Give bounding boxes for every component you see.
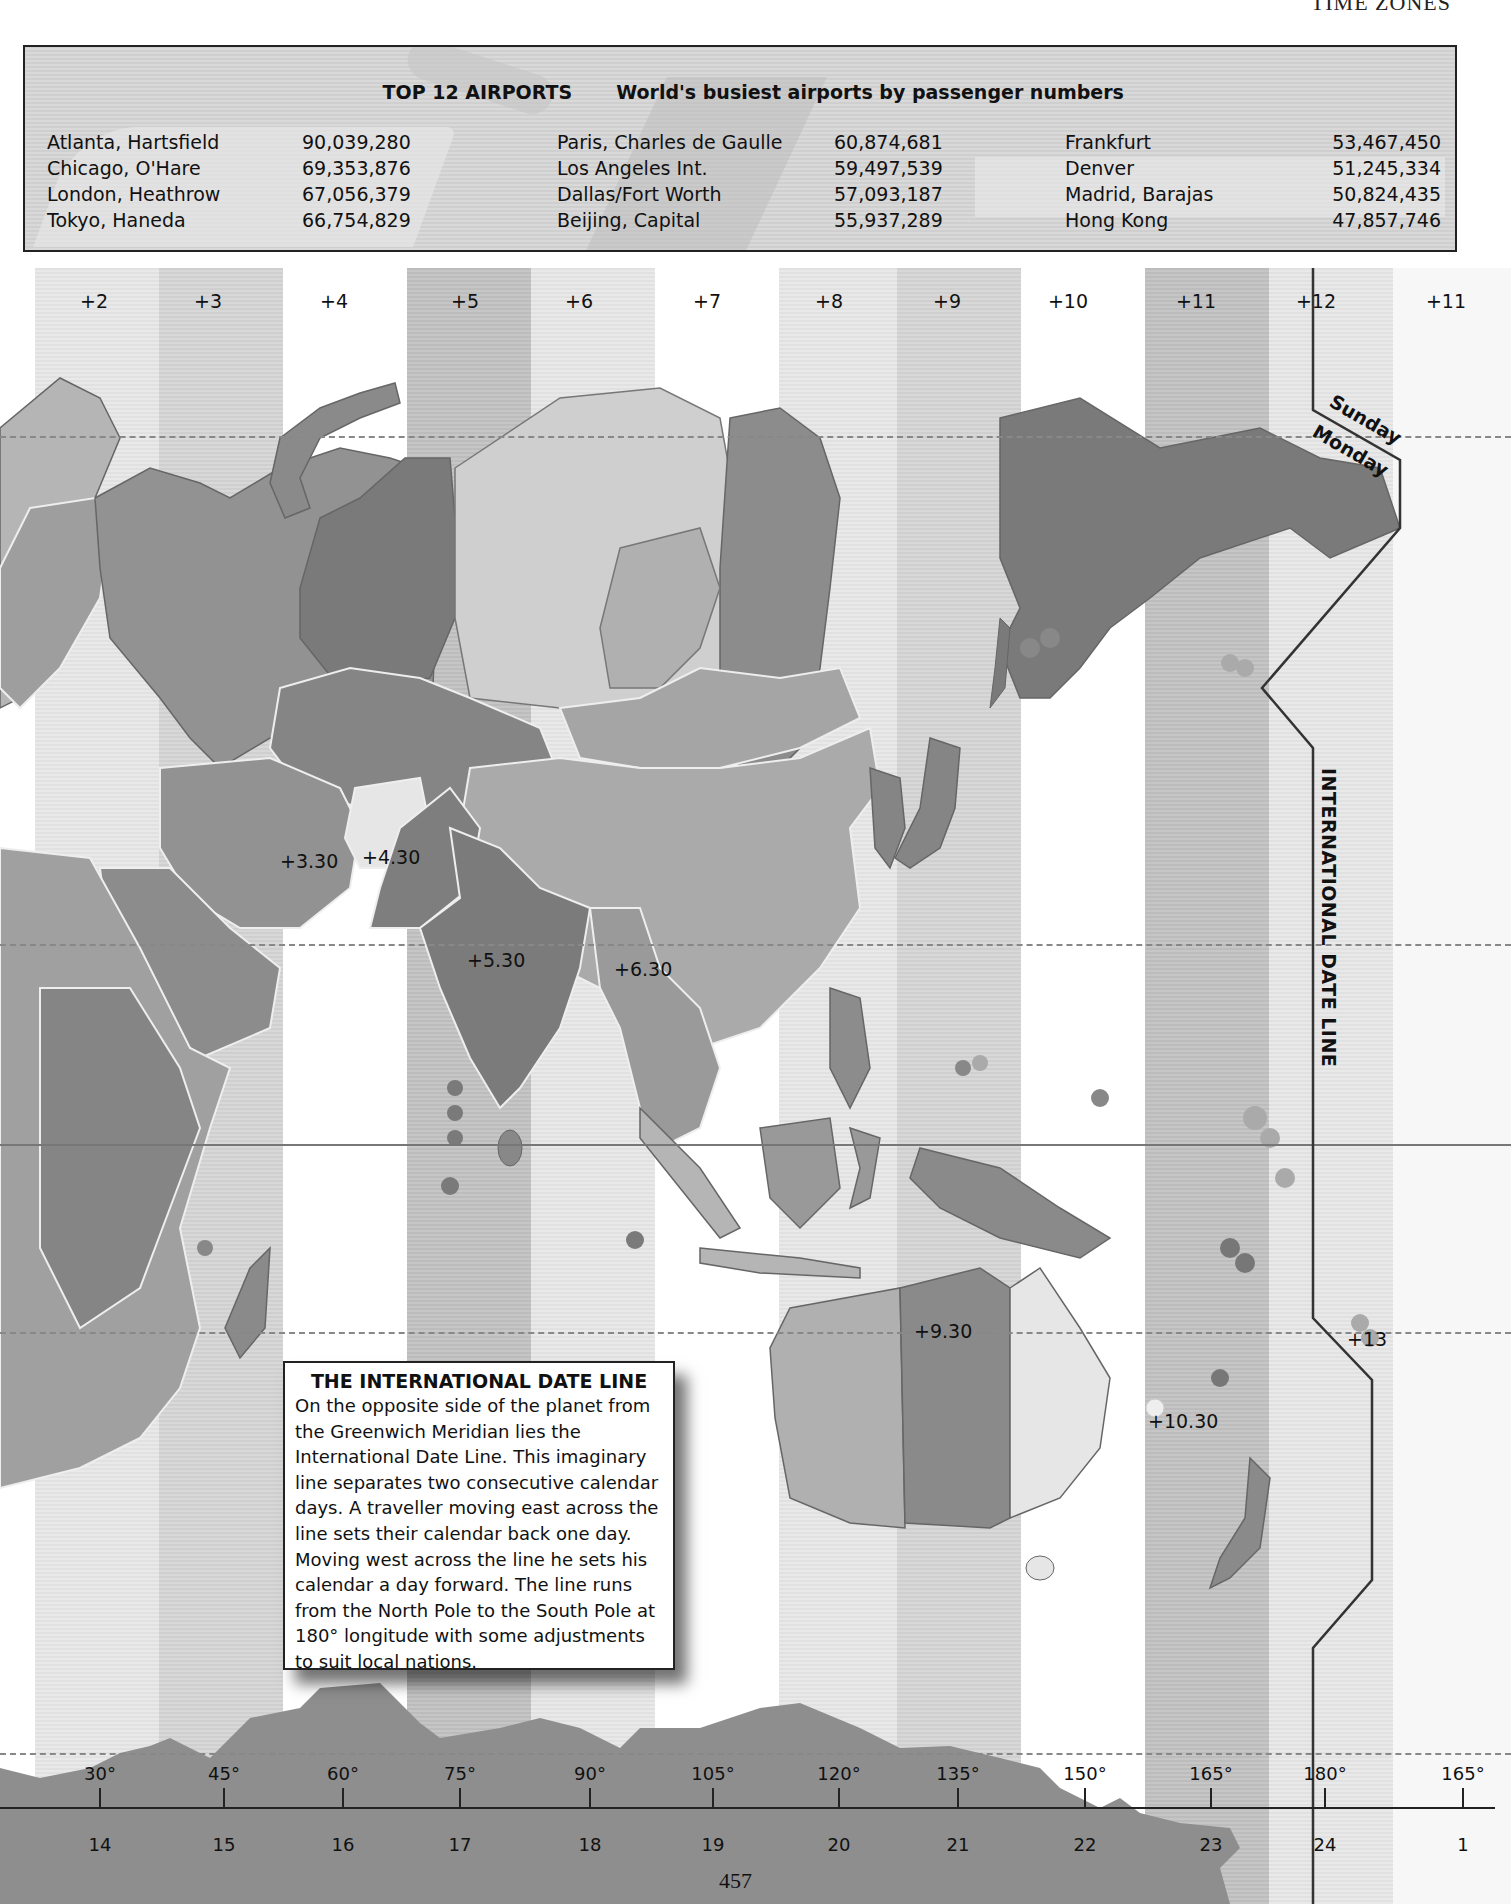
scale-degree-label: 165° [1189,1763,1232,1784]
airport-row: London, Heathrow67,056,379 [47,181,422,207]
airport-name: Dallas/Fort Worth [557,181,722,207]
scale-tick [589,1788,591,1808]
airport-passengers: 55,937,289 [834,207,943,233]
offset-label-iran: +3.30 [280,850,338,872]
airport-row: Chicago, O'Hare69,353,876 [47,155,422,181]
scale-degree-label: 75° [444,1763,476,1784]
scale-hour-label: 16 [332,1834,355,1855]
time-zone-map: +2 +3 +4 +5 +6 +7 +8 +9 +10 +11 +12 +11 [0,268,1511,1904]
scale-tick [1462,1788,1464,1808]
scale-hour-label: 1 [1457,1834,1468,1855]
scale-degree-label: 180° [1303,1763,1346,1784]
scale-degree-label: 90° [574,1763,606,1784]
scale-hour-label: 23 [1200,1834,1223,1855]
offset-label-lord-howe: +10.30 [1148,1410,1218,1432]
airport-row: Paris, Charles de Gaulle60,874,681 [557,129,942,155]
airport-name: Chicago, O'Hare [47,155,201,181]
page-number: 457 [719,1868,752,1894]
scale-degree-label: 45° [208,1763,240,1784]
scale-tick [99,1788,101,1808]
airport-name: Paris, Charles de Gaulle [557,129,782,155]
airport-passengers: 57,093,187 [834,181,943,207]
top-airports-panel: TOP 12 AIRPORTSWorld's busiest airports … [23,45,1457,252]
airports-panel-subtitle: World's busiest airports by passenger nu… [616,81,1124,103]
scale-tick [223,1788,225,1808]
scale-degree-label: 150° [1063,1763,1106,1784]
airports-panel-title: TOP 12 AIRPORTS [383,81,573,103]
info-box-title: THE INTERNATIONAL DATE LINE [295,1369,663,1393]
scale-hour-label: 14 [89,1834,112,1855]
airport-passengers: 67,056,379 [302,181,411,207]
scale-tick [838,1788,840,1808]
offset-label-afghanistan: +4.30 [362,846,420,868]
airports-column-1: Atlanta, Hartsfield90,039,280 Chicago, O… [47,129,422,233]
airport-passengers: 66,754,829 [302,207,411,233]
info-box-body: On the opposite side of the planet from … [295,1393,663,1675]
scale-degree-label: 120° [817,1763,860,1784]
airport-passengers: 51,245,334 [1332,155,1441,181]
offset-label-myanmar: +6.30 [614,958,672,980]
airport-name: Beijing, Capital [557,207,700,233]
airport-passengers: 59,497,539 [834,155,943,181]
offset-label-central-australia: +9.30 [914,1320,972,1342]
scale-hour-label: 24 [1314,1834,1337,1855]
airport-name: Los Angeles Int. [557,155,708,181]
airport-passengers: 60,874,681 [834,129,943,155]
airport-row: Dallas/Fort Worth57,093,187 [557,181,942,207]
airport-name: Denver [1065,155,1134,181]
scale-degree-label: 135° [936,1763,979,1784]
airports-panel-heading: TOP 12 AIRPORTSWorld's busiest airports … [25,59,1455,125]
scale-degree-label: 105° [691,1763,734,1784]
scale-hour-label: 18 [579,1834,602,1855]
airport-row: Atlanta, Hartsfield90,039,280 [47,129,422,155]
scale-hour-label: 22 [1074,1834,1097,1855]
scale-hour-label: 17 [449,1834,472,1855]
airport-passengers: 53,467,450 [1332,129,1441,155]
offset-label-tonga: +13 [1347,1328,1387,1350]
scale-tick [1084,1788,1086,1808]
airport-row: Los Angeles Int.59,497,539 [557,155,942,181]
scale-hour-label: 20 [828,1834,851,1855]
running-head: TIME ZONES [1311,0,1451,16]
airports-column-2: Paris, Charles de Gaulle60,874,681 Los A… [557,129,942,233]
airport-passengers: 90,039,280 [302,129,411,155]
scale-tick [957,1788,959,1808]
scale-hour-label: 19 [702,1834,725,1855]
offset-label-india: +5.30 [467,949,525,971]
airport-passengers: 69,353,876 [302,155,411,181]
airport-name: Atlanta, Hartsfield [47,129,219,155]
scale-degree-label: 165° [1441,1763,1484,1784]
scale-degree-label: 60° [327,1763,359,1784]
airport-row: Tokyo, Haneda66,754,829 [47,207,422,233]
airport-name: London, Heathrow [47,181,220,207]
scale-tick [712,1788,714,1808]
scale-tick [1324,1788,1326,1808]
airport-passengers: 47,857,746 [1332,207,1441,233]
airport-row: Frankfurt53,467,450 [1065,129,1441,155]
date-line-label: INTERNATIONAL DATE LINE [1318,768,1340,1067]
scale-tick [1210,1788,1212,1808]
airport-row: Madrid, Barajas50,824,435 [1065,181,1441,207]
airports-column-3: Frankfurt53,467,450 Denver51,245,334 Mad… [1065,129,1441,233]
airport-name: Tokyo, Haneda [47,207,186,233]
scale-tick [459,1788,461,1808]
airport-row: Beijing, Capital55,937,289 [557,207,942,233]
international-date-line [0,268,1511,1904]
date-line-info-box: THE INTERNATIONAL DATE LINE On the oppos… [283,1361,675,1670]
airport-row: Hong Kong47,857,746 [1065,207,1441,233]
scale-hour-label: 21 [947,1834,970,1855]
airport-name: Hong Kong [1065,207,1168,233]
airport-name: Madrid, Barajas [1065,181,1213,207]
airport-name: Frankfurt [1065,129,1151,155]
scale-hour-label: 15 [213,1834,236,1855]
airport-passengers: 50,824,435 [1332,181,1441,207]
airport-row: Denver51,245,334 [1065,155,1441,181]
scale-degree-label: 30° [84,1763,116,1784]
scale-tick [342,1788,344,1808]
